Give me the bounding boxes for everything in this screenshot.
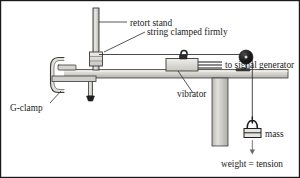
bench-leg bbox=[212, 78, 228, 146]
g-clamp-arm bbox=[52, 76, 96, 82]
label-mass: mass bbox=[265, 129, 284, 139]
label-string-clamped: string clamped firmly bbox=[147, 27, 228, 37]
label-g-clamp: G-clamp bbox=[10, 103, 43, 113]
label-signal-generator: to signal generator bbox=[225, 60, 295, 70]
label-vibrator: vibrator bbox=[177, 89, 207, 99]
label-weight-tension: weight = tension bbox=[221, 159, 283, 169]
pulley-axle bbox=[245, 56, 248, 59]
label-retort-stand: retort stand bbox=[130, 18, 172, 28]
vibrator-body bbox=[166, 59, 198, 72]
figure-standing-waves: retort stand string clamped firmly to si… bbox=[0, 0, 300, 178]
